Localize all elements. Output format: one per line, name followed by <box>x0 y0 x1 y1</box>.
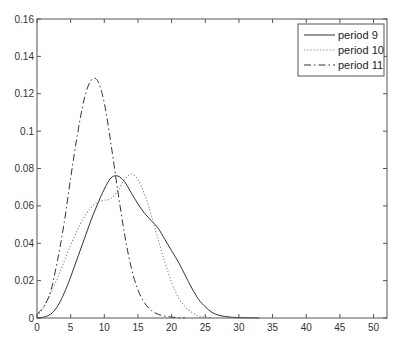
x-tick-label: 20 <box>166 322 178 333</box>
x-tick-label: 50 <box>368 322 380 333</box>
x-tick-label: 45 <box>334 322 346 333</box>
y-tick-label: 0.1 <box>20 126 34 137</box>
y-tick-label: 0.16 <box>15 14 35 25</box>
y-tick-label: 0 <box>28 313 34 324</box>
legend-label: period 9 <box>338 29 378 41</box>
line-chart: 05101520253035404550 00.020.040.060.080.… <box>0 0 401 345</box>
y-tick-label: 0.14 <box>15 51 35 62</box>
legend-label: period 11 <box>338 59 383 71</box>
legend: period 9period 10period 11 <box>298 24 384 76</box>
y-tick-label: 0.06 <box>15 200 35 211</box>
x-tick-label: 25 <box>200 322 212 333</box>
x-tick-label: 5 <box>68 322 74 333</box>
y-tick-label: 0.02 <box>15 275 35 286</box>
x-tick-label: 15 <box>132 322 144 333</box>
y-tick-label: 0.12 <box>15 88 35 99</box>
y-tick-label: 0.04 <box>15 238 35 249</box>
x-tick-label: 10 <box>99 322 111 333</box>
x-tick-label: 0 <box>34 322 40 333</box>
x-tick-label: 35 <box>267 322 279 333</box>
legend-label: period 10 <box>338 44 384 56</box>
x-tick-label: 40 <box>301 322 313 333</box>
y-tick-label: 0.08 <box>15 163 35 174</box>
x-tick-label: 30 <box>233 322 245 333</box>
